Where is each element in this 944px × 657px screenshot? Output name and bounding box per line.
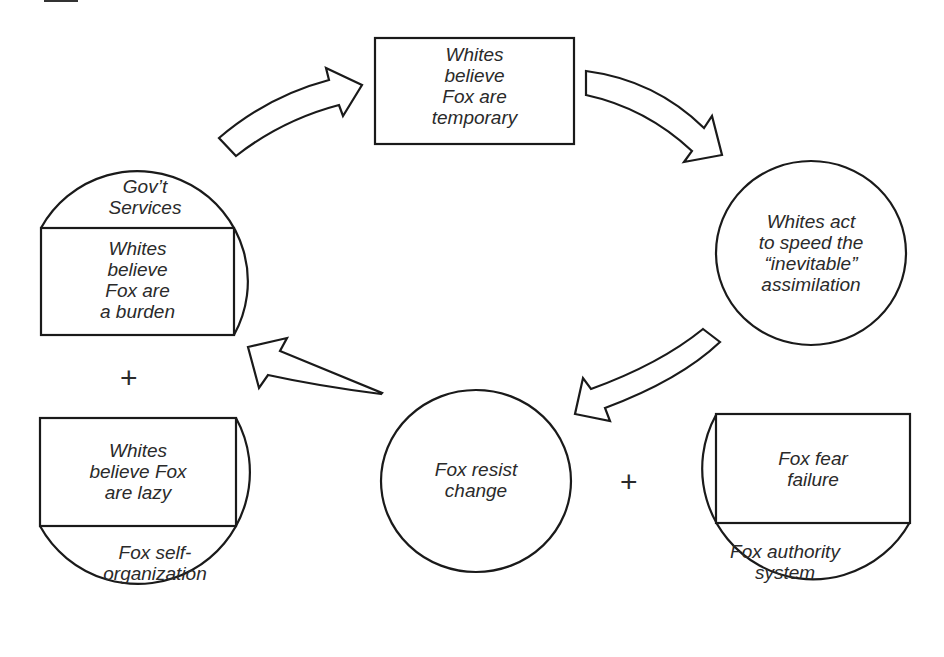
bottom-right-footer: Fox authority system — [700, 541, 870, 583]
arrow-down-left-icon — [575, 329, 720, 421]
right-plus-operator: + — [620, 467, 638, 497]
bottom-left-footer: Fox self- organization — [70, 542, 240, 584]
arrow-up-left-icon — [248, 338, 382, 394]
left-plus-operator: + — [120, 363, 138, 393]
arrow-up-right-icon — [219, 68, 362, 156]
center-circle-label: Fox resist change — [381, 459, 571, 501]
top-box-label: Whites believe Fox are temporary — [375, 44, 574, 128]
bottom-right-box-label: Fox fear failure — [716, 448, 910, 490]
left-inner-box-label: Whites believe Fox are a burden — [41, 238, 234, 322]
arrow-down-right-icon — [586, 71, 722, 162]
left-circle-header: Gov’t Services — [70, 176, 220, 218]
bottom-left-box-label: Whites believe Fox are lazy — [40, 440, 236, 503]
page-number-fragment — [44, 0, 78, 2]
right-circle-label: Whites act to speed the “inevitable” ass… — [716, 211, 906, 295]
